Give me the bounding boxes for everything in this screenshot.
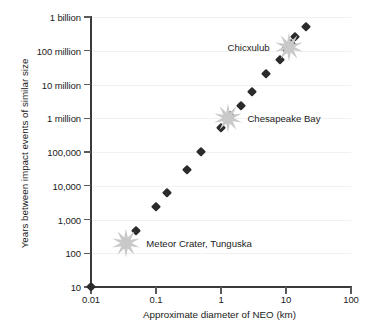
y-axis-tick-label: 1 million (47, 113, 81, 124)
y-axis-tick-label: 10 (71, 282, 81, 293)
x-axis-tick-label: 0.01 (82, 294, 100, 305)
starburst-icon (274, 32, 304, 62)
y-axis-title: Years between impact events of similar s… (19, 34, 30, 274)
gridline (92, 220, 351, 221)
y-axis-tick-label: 1 billion (50, 12, 81, 23)
y-axis-tick-label: 100 million (37, 45, 81, 56)
data-point-diamond (151, 201, 161, 211)
x-axis-tick (285, 287, 286, 294)
y-axis-tick (84, 16, 91, 17)
data-point-diamond (182, 164, 192, 174)
gridline (92, 51, 351, 52)
y-axis-tick-label: 1,000 (58, 214, 81, 225)
impact-frequency-chart: 101001,00010,000100,0001 million10 milli… (0, 0, 379, 329)
data-point-diamond (196, 147, 206, 157)
gridline (92, 17, 351, 18)
data-point-diamond (86, 282, 96, 292)
y-axis-tick-label: 10 million (42, 79, 81, 90)
y-axis-tick (84, 118, 91, 119)
x-axis-title: Approximate diameter of NEO (km) (0, 309, 379, 320)
gridline (92, 85, 351, 86)
annotation-label: Chicxulub (228, 41, 270, 52)
x-axis-tick (220, 287, 221, 294)
data-point-diamond (247, 87, 257, 97)
y-axis-tick-label: 100 (65, 248, 81, 259)
y-axis-tick (84, 151, 91, 152)
gridline (92, 152, 351, 153)
data-point-diamond (300, 22, 310, 32)
starburst-icon (213, 103, 243, 133)
annotation-label: Meteor Crater, Tunguska (146, 238, 252, 249)
annotation-label: Chesapeake Bay (247, 113, 320, 124)
y-axis-tick (84, 50, 91, 51)
y-axis-tick (84, 253, 91, 254)
y-axis-tick (84, 84, 91, 85)
y-axis-tick-label: 100,000 (47, 147, 81, 158)
x-axis-tick (350, 287, 351, 294)
x-axis-tick-label: 0.1 (150, 294, 163, 305)
gridline (92, 186, 351, 187)
y-axis-tick (84, 219, 91, 220)
y-axis-tick (84, 185, 91, 186)
data-point-diamond (162, 188, 172, 198)
data-point-diamond (261, 69, 271, 79)
x-axis-tick (155, 287, 156, 294)
x-axis-tick-label: 1 (218, 294, 223, 305)
x-axis-tick-label: 100 (343, 294, 359, 305)
x-axis-tick-label: 10 (281, 294, 291, 305)
starburst-icon (111, 228, 141, 258)
y-axis-tick-label: 10,000 (53, 180, 81, 191)
